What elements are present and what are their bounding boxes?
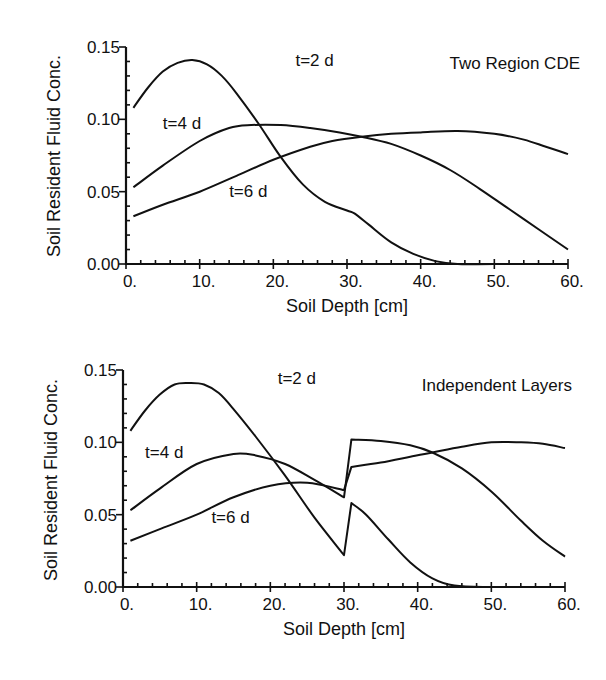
y-tick-label: 0.15: [84, 361, 117, 380]
x-tick-label: 20.: [263, 595, 287, 614]
panel-title: Independent Layers: [422, 376, 572, 395]
x-axis-title: Soil Depth [cm]: [283, 619, 405, 639]
y-tick-label: 0.05: [87, 183, 120, 202]
series-labels: t=2 dt=4 dt=6 d: [145, 369, 316, 527]
series-curve-t-4-d: [130, 439, 565, 556]
series-label: t=6 d: [229, 182, 267, 201]
x-tick-label: 60.: [557, 595, 581, 614]
panel-two-region-cde: Soil Resident Fluid Conc. Soil Depth [cm…: [44, 38, 584, 316]
x-tick-label: 0.: [120, 595, 134, 614]
series-curve-t-4-d: [133, 125, 568, 250]
curves: [133, 60, 568, 264]
y-tick-label: 0.05: [84, 506, 117, 525]
x-tick-label: 40.: [410, 595, 434, 614]
x-axis-title: Soil Depth [cm]: [286, 296, 408, 316]
x-tick-label: 40.: [413, 272, 437, 291]
axes: 0.000.050.100.150.10.20.30.40.50.60.: [87, 38, 584, 291]
series-curve-t-2-d: [133, 60, 568, 264]
x-tick-label: 60.: [560, 272, 584, 291]
x-tick-label: 20.: [266, 272, 290, 291]
series-label: t=4 d: [163, 114, 201, 133]
x-tick-label: 10.: [189, 595, 213, 614]
x-tick-label: 50.: [487, 272, 511, 291]
series-label: t=2 d: [295, 51, 333, 70]
series-label: t=6 d: [211, 508, 249, 527]
x-tick-label: 50.: [484, 595, 508, 614]
x-tick-label: 0.: [123, 272, 137, 291]
y-tick-label: 0.00: [84, 578, 117, 597]
x-tick-label: 30.: [336, 595, 360, 614]
panel-title: Two Region CDE: [450, 54, 580, 73]
figure: Soil Resident Fluid Conc. Soil Depth [cm…: [0, 0, 606, 680]
panel-independent-layers: Soil Resident Fluid Conc. Soil Depth [cm…: [41, 361, 581, 639]
y-axis-title: Soil Resident Fluid Conc.: [41, 379, 61, 581]
series-curve-t-2-d: [130, 383, 565, 587]
x-tick-label: 30.: [339, 272, 363, 291]
y-tick-label: 0.10: [87, 110, 120, 129]
y-tick-label: 0.15: [87, 38, 120, 57]
y-tick-label: 0.10: [84, 433, 117, 452]
curves: [130, 383, 565, 587]
y-axis-title: Soil Resident Fluid Conc.: [44, 55, 64, 257]
x-tick-label: 10.: [192, 272, 216, 291]
axis-lines: [126, 47, 568, 264]
y-tick-label: 0.00: [87, 255, 120, 274]
series-label: t=2 d: [278, 369, 316, 388]
series-label: t=4 d: [145, 443, 183, 462]
